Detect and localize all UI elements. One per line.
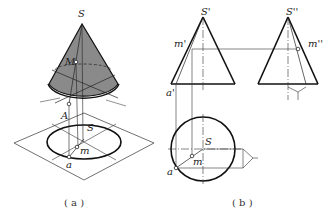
label-m-side: m'' — [308, 38, 323, 49]
caption-b: ( b ) — [232, 197, 253, 208]
label-a-projected: a — [66, 159, 72, 170]
label-S-projected: S — [87, 122, 94, 133]
label-m-top: m — [193, 156, 202, 167]
diagram-canvas: S M A S m a ( a ) — [0, 0, 326, 218]
label-S-apex: S — [78, 8, 85, 19]
panel-b: S' m' a' S'' m'' S m a ( b ) — [166, 6, 323, 208]
label-S-top: S — [205, 136, 212, 147]
label-A: A — [60, 110, 68, 121]
label-m-front: m' — [174, 38, 186, 49]
point-A — [67, 102, 71, 106]
label-m-projected: m — [80, 145, 89, 156]
label-S-side: S'' — [286, 6, 298, 17]
label-a-front: a' — [166, 87, 175, 98]
point-m-side — [296, 47, 300, 51]
cone-body — [49, 24, 118, 96]
panel-a: S M A S m a ( a ) — [14, 8, 154, 208]
label-M: M — [64, 56, 76, 67]
caption-a: ( a ) — [64, 197, 84, 208]
label-a-top: a — [167, 166, 173, 177]
label-S-front: S' — [201, 6, 211, 17]
point-a-top — [174, 166, 178, 170]
point-m-a — [75, 145, 79, 149]
